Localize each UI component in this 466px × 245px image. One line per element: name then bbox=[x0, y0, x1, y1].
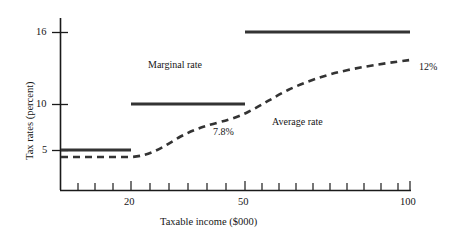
x-tick-label-20: 20 bbox=[124, 196, 135, 207]
tax-rates-chart: 16 10 5 20 50 100 Tax rates (percent) Ta… bbox=[0, 0, 466, 245]
annotation-marginal-rate: Marginal rate bbox=[148, 59, 202, 70]
chart-plot-area bbox=[0, 0, 466, 245]
x-tick-label-50: 50 bbox=[238, 196, 249, 207]
y-tick-label-10: 10 bbox=[36, 98, 47, 109]
average-rate-series bbox=[61, 60, 410, 157]
y-tick-label-5: 5 bbox=[42, 144, 47, 155]
annotation-average-rate: Average rate bbox=[272, 116, 323, 127]
annotation-value-12-percent: 12% bbox=[419, 61, 437, 72]
y-axis-title: Tax rates (percent) bbox=[24, 81, 35, 160]
marginal-rate-series bbox=[61, 32, 410, 150]
annotation-value-7-8-percent: 7.8% bbox=[213, 126, 234, 137]
x-axis-title: Taxable income ($000) bbox=[160, 216, 257, 227]
y-tick-label-16: 16 bbox=[36, 26, 47, 37]
x-tick-label-100: 100 bbox=[400, 196, 416, 207]
x-axis-ticks bbox=[78, 181, 410, 190]
